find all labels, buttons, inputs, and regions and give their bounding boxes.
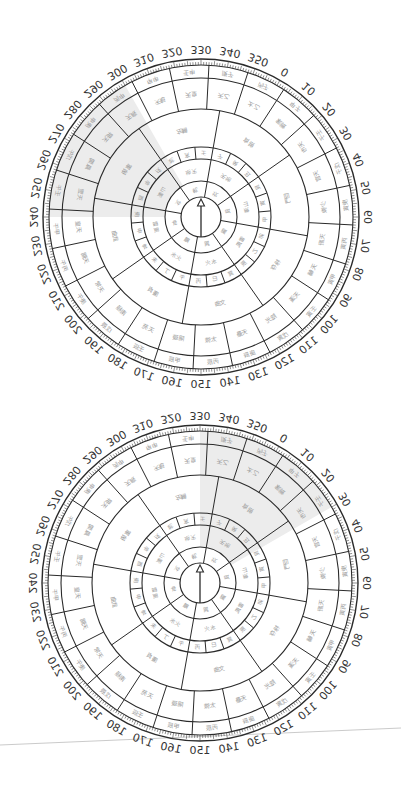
degree-label: 210 <box>44 654 66 679</box>
degree-label: 0 <box>278 65 291 80</box>
ring-cell-label: 卯 <box>256 598 265 606</box>
ring-cell-label: 風雷 <box>150 221 159 234</box>
ring-cell-label: 武曲 <box>108 595 118 608</box>
ring-cell-label: 乾 <box>191 186 199 195</box>
ring-cell-label: 火水 <box>168 616 182 628</box>
ring-cell-label: 陽璇 <box>172 333 185 343</box>
degree-label: 100 <box>318 312 341 336</box>
degree-label: 240 <box>26 573 39 594</box>
ring-cell-label: 巽 <box>202 606 209 614</box>
ring-cell-label: 巨門 <box>282 191 292 204</box>
ring-cell-label: 申 <box>133 593 142 601</box>
ring-cell-label: 寅 <box>257 565 266 573</box>
ring-cell-label: 丙午 <box>57 624 69 638</box>
ring-cell-label: 廉貞 <box>145 651 159 664</box>
ring-cell-label: 天輔 <box>305 629 317 643</box>
ring-cell-label: 離 <box>181 601 190 611</box>
ring-cell-label: 辰 <box>239 626 248 635</box>
ring-cell-label: 壬 <box>200 516 206 523</box>
degree-label: 180 <box>105 351 130 373</box>
degree-label: 190 <box>80 700 104 723</box>
ring-cell-label: 陰光 <box>264 312 278 325</box>
ring-cell-label: 文曲 <box>213 298 226 308</box>
ring-cell-label: 天壘 <box>235 327 249 339</box>
ring-cell-label: 卯 <box>257 232 266 240</box>
ring-cell-label: 武曲 <box>109 229 119 242</box>
ring-cell-label: 山澤 <box>241 200 251 213</box>
ring-cell-label: 艮 <box>253 183 262 192</box>
degree-label: 150 <box>191 378 212 391</box>
ring-cell-label: 艮 <box>223 573 231 580</box>
ring-cell-label: 巳 <box>211 275 218 282</box>
degree-label: 290 <box>81 77 105 100</box>
ring-cell-label: 水火 <box>204 257 217 266</box>
degree-label: 230 <box>28 235 44 258</box>
ring-cell-label: 甲 <box>261 217 268 223</box>
degree-label: 140 <box>218 740 241 756</box>
degree-label: 270 <box>44 487 66 512</box>
ring-cell-label: 南極 <box>113 670 127 684</box>
ring-cell-label: 天皇 <box>74 220 83 233</box>
ring-cell-label: 庚 <box>132 577 140 583</box>
ring-cell-label: 澤山 <box>154 551 167 565</box>
ring-cell-label: 火水 <box>169 250 183 262</box>
luopan-diagram: 坎艮震巽離坤兌乾天地山澤雷風水火火水風雷澤山地天子癸丑艮寅甲卯乙辰巽巳丙午丁未坤… <box>0 0 401 800</box>
degree-label: 30 <box>336 490 354 509</box>
ring-cell-label: 甲午 <box>52 222 61 235</box>
degree-label: 340 <box>218 410 241 426</box>
degree-label: 70 <box>357 604 372 620</box>
degree-label: 160 <box>159 740 182 756</box>
ring-cell-label: 乾 <box>166 522 175 532</box>
ring-cell-label: 太微 <box>203 701 216 710</box>
ring-cell-label: 陰光 <box>263 678 277 691</box>
ring-cell-label: 祿存 <box>269 257 281 271</box>
ring-cell-label: 丙 <box>194 643 200 650</box>
ring-cell-label: 坤 <box>139 608 149 617</box>
ring-cell-label: 鳳閣 <box>83 523 95 537</box>
ring-cell-label: 天皇 <box>184 456 197 465</box>
ring-cell-label: 陽璇 <box>171 699 184 709</box>
ring-cell-label: 艮 <box>224 207 232 214</box>
degree-label: 160 <box>160 374 183 390</box>
ring-cell-label: 午 <box>178 273 186 282</box>
degree-label: 90 <box>337 291 355 310</box>
ring-cell-label: 天苑 <box>141 322 155 334</box>
ring-cell-label: 少微 <box>319 201 328 214</box>
luopan-compass-bottom: 坎艮震巽離坤兌乾天地山澤雷風水火火水風雷澤山地天子癸丑艮寅甲卯乙辰巽巳丙午丁未坤… <box>26 409 374 757</box>
ring-cell-label: 天官 <box>311 169 323 183</box>
degree-label: 120 <box>272 351 297 373</box>
ring-cell-label: 酉 <box>135 560 143 568</box>
ring-cell-label: 少微 <box>318 567 327 580</box>
ring-cell-label: 天官 <box>310 535 322 549</box>
ring-cell-label: 南極 <box>114 304 128 318</box>
degree-label: 180 <box>104 717 129 739</box>
ring-cell-label: 乙 <box>250 247 258 255</box>
ring-cell-label: 天漢 <box>288 290 302 304</box>
degree-label: 110 <box>295 700 319 723</box>
degree-label: 320 <box>159 410 182 426</box>
ring-cell-label: 天市 <box>296 140 309 154</box>
degree-label: 30 <box>337 124 355 143</box>
ring-cell-label: 天常 <box>93 280 106 294</box>
degree-label: 100 <box>317 678 340 702</box>
ring-cell-label: 寅 <box>258 199 267 207</box>
ring-cell-label: 坤 <box>170 219 179 227</box>
degree-label: 290 <box>80 443 104 466</box>
ring-cell-label: 兌 <box>173 198 183 207</box>
ring-cell-label: 未 <box>149 255 159 265</box>
degree-label: 0 <box>277 431 290 446</box>
ring-cell-label: 天廄 <box>123 475 137 488</box>
ring-cell-label: 坤 <box>169 585 178 593</box>
ring-cell-label: 甲午 <box>51 588 60 601</box>
ring-cell-label: 紫微 <box>274 116 288 130</box>
ring-cell-label: 甲辰 <box>167 721 180 731</box>
degree-label: 240 <box>27 207 40 228</box>
ring-cell-label: 辛 <box>141 544 151 553</box>
ring-cell-label: 丙辰 <box>206 357 219 366</box>
ring-cell-label: 巽 <box>226 269 235 278</box>
degree-label: 60 <box>361 576 374 590</box>
ring-cell-label: 兌 <box>172 564 182 573</box>
degree-label: 80 <box>350 265 367 283</box>
degree-label: 110 <box>296 334 320 357</box>
ring-cell-label: 離 <box>182 235 191 245</box>
